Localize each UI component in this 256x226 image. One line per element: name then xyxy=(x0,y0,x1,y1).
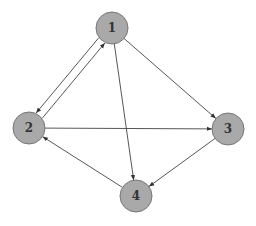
edges-group xyxy=(36,38,216,188)
node-4: 4 xyxy=(120,180,152,212)
directed-graph: 1234 xyxy=(0,0,256,226)
edge-2-to-1 xyxy=(42,43,105,118)
node-1: 1 xyxy=(96,12,128,44)
edge-1-to-2 xyxy=(36,38,99,113)
node-label: 1 xyxy=(108,21,116,35)
edge-2-to-3 xyxy=(45,128,212,129)
edge-4-to-2 xyxy=(43,137,123,188)
node-label: 3 xyxy=(224,122,232,136)
node-label: 4 xyxy=(132,189,140,203)
node-label: 2 xyxy=(25,121,33,135)
edge-1-to-3 xyxy=(124,39,216,119)
node-2: 2 xyxy=(13,112,45,144)
edge-1-to-4 xyxy=(114,44,133,180)
node-3: 3 xyxy=(212,113,244,145)
edge-3-to-4 xyxy=(149,138,215,186)
